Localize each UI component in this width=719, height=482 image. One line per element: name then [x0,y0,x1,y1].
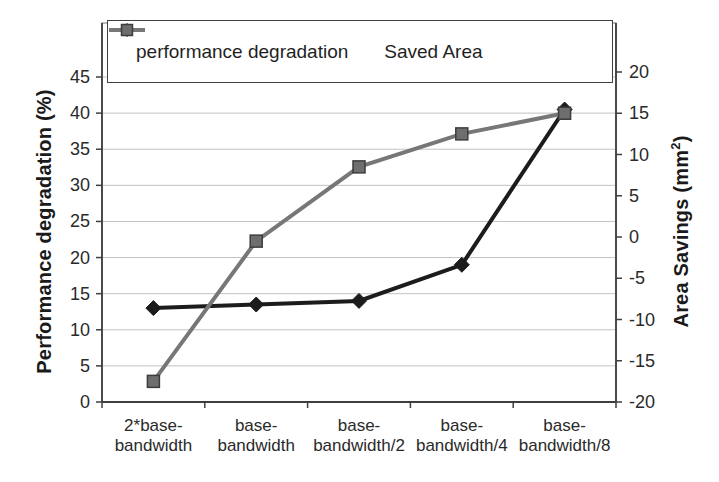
legend-item-performance: performance degradation [136,41,348,63]
data-point-square [353,161,365,173]
data-point-diamond [146,301,161,316]
data-point-diamond [249,297,264,312]
legend-item-saved-area: Saved Area [384,41,482,63]
x-axis-category-label: 2*base- bandwidth [115,416,193,456]
left-axis-tick-label: 45 [70,67,90,88]
right-axis-tick-label: 15 [629,103,649,124]
legend-label-saved-area: Saved Area [384,41,482,63]
right-axis-tick-label: -5 [629,268,645,289]
right-axis-tick-label: 20 [629,62,649,83]
left-axis-tick-label: 15 [70,283,90,304]
data-point-square [456,128,468,140]
superscript-2: 2 [668,142,683,149]
left-axis-tick-label: 10 [70,319,90,340]
x-axis-category-label: base- bandwidth/4 [416,416,508,456]
series-line-saved-area [153,113,564,381]
left-axis-tick-label: 20 [70,247,90,268]
data-point-square [250,235,262,247]
series-line-performance [153,110,564,309]
left-axis-tick-label: 5 [80,355,90,376]
data-point-diamond [352,293,367,308]
left-axis-tick-label: 25 [70,211,90,232]
left-axis-tick-label: 40 [70,103,90,124]
right-axis-tick-label: -15 [629,350,655,371]
legend-label-performance: performance degradation [136,41,348,63]
right-axis-tick-label: -10 [629,309,655,330]
right-axis-tick-label: 10 [629,144,649,165]
chart-legend: performance degradation Saved Area [107,20,613,83]
chart-figure: performance degradation Saved Area Perfo… [0,0,719,482]
x-axis-category-label: base- bandwidth/2 [313,416,405,456]
left-axis-title-text: Performance degradation (%) [33,89,56,373]
right-axis-title-text: Area Savings (mm2) [670,135,693,327]
data-point-square [147,375,159,387]
saved-area-legend-marker-icon [108,21,146,39]
left-axis-tick-label: 30 [70,175,90,196]
x-axis-category-label: base- bandwidth/8 [519,416,611,456]
left-axis-tick-label: 35 [70,139,90,160]
right-axis-tick-label: 5 [629,185,639,206]
left-axis-tick-label: 0 [80,392,90,413]
data-point-square [559,107,571,119]
x-axis-category-label: base- bandwidth [217,416,295,456]
right-axis-tick-label: 0 [629,227,639,248]
right-axis-tick-label: -20 [629,392,655,413]
